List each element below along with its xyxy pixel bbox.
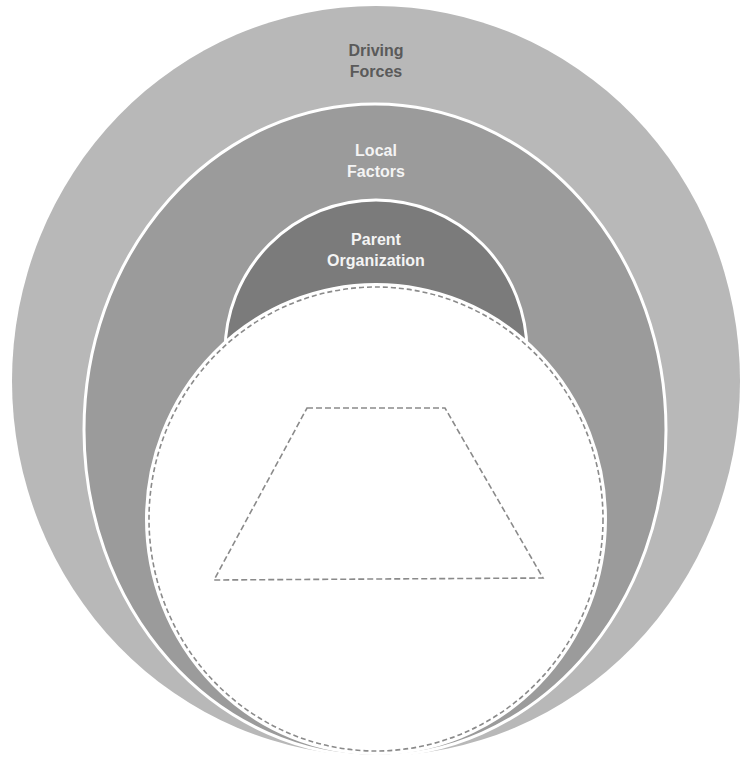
local-factors-label-line2: Factors — [0, 161, 743, 182]
parent-organization-label-line2: Organization — [0, 250, 743, 271]
local-factors-label-line1: Local — [0, 140, 743, 161]
parent-organization-label: Parent Organization — [0, 229, 743, 271]
driving-forces-label-line2: Forces — [0, 61, 743, 82]
parent-organization-label-line1: Parent — [0, 229, 743, 250]
driving-forces-label-line1: Driving — [0, 40, 743, 61]
local-factors-label: Local Factors — [0, 140, 743, 182]
nested-circles-diagram — [0, 0, 743, 759]
driving-forces-label: Driving Forces — [0, 40, 743, 82]
